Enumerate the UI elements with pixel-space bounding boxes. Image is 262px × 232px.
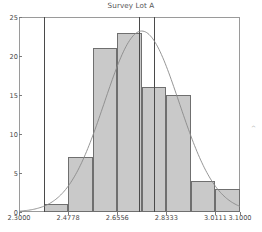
- x-tick-label: 2.3000: [7, 214, 30, 222]
- chart-root: Survey Lot A 0510152025 2.30002.47782.65…: [0, 0, 262, 232]
- stray-glyph: ^: [251, 124, 256, 131]
- y-tick-label: 20: [0, 53, 18, 61]
- histogram-bar: [68, 157, 93, 212]
- y-tick-mark: [19, 17, 22, 18]
- y-tick-mark: [19, 173, 22, 174]
- y-tick-label: 15: [0, 92, 18, 100]
- x-tick-label: 3.1000: [228, 214, 251, 222]
- spec-limit-right: [154, 17, 155, 212]
- x-tick-label: 2.6556: [106, 214, 129, 222]
- x-tick-label: 2.8333: [155, 214, 178, 222]
- y-tick-mark: [19, 56, 22, 57]
- histogram-bar: [191, 181, 216, 212]
- chart-title: Survey Lot A: [0, 1, 262, 10]
- spec-limit-target: [139, 17, 140, 212]
- spec-limit-left: [44, 17, 45, 212]
- y-tick-label: 5: [0, 170, 18, 178]
- x-tick-label: 2.4778: [57, 214, 80, 222]
- y-tick-mark: [19, 134, 22, 135]
- histogram-bar: [166, 95, 191, 212]
- y-tick-label: 25: [0, 14, 18, 22]
- y-tick-label: 10: [0, 131, 18, 139]
- histogram-bar: [215, 189, 240, 212]
- histogram-bar: [93, 48, 118, 212]
- y-tick-mark: [19, 95, 22, 96]
- histogram-bar: [44, 204, 69, 212]
- x-tick-label: 3.0111: [204, 214, 227, 222]
